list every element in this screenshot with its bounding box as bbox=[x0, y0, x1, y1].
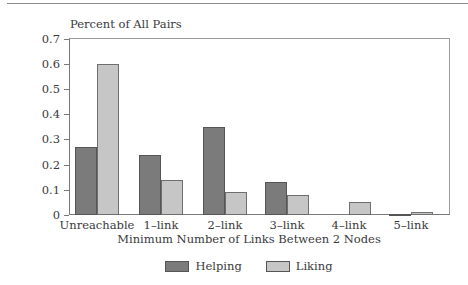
legend: Helping Liking bbox=[0, 259, 468, 273]
legend-label-helping: Helping bbox=[195, 259, 241, 273]
y-tick bbox=[64, 215, 69, 216]
y-tick-label: 0.6 bbox=[30, 57, 60, 71]
y-tick bbox=[64, 190, 69, 191]
y-tick bbox=[64, 89, 69, 90]
y-tick-label: 0 bbox=[30, 208, 60, 222]
y-tick-label: 0.5 bbox=[30, 82, 60, 96]
x-axis-label: Minimum Number of Links Between 2 Nodes bbox=[0, 232, 468, 246]
y-tick bbox=[64, 165, 69, 166]
legend-item-liking: Liking bbox=[266, 259, 333, 273]
bar-helping bbox=[203, 127, 225, 215]
y-tick bbox=[64, 39, 69, 40]
y-tick-label: 0.2 bbox=[30, 158, 60, 172]
bar-liking bbox=[287, 195, 309, 215]
y-tick-label: 0.7 bbox=[30, 32, 60, 46]
bar-liking bbox=[97, 64, 119, 215]
y-axis-label: Percent of All Pairs bbox=[70, 17, 182, 31]
bar-liking bbox=[225, 192, 247, 215]
y-tick-label: 0.3 bbox=[30, 132, 60, 146]
y-tick bbox=[64, 139, 69, 140]
legend-label-liking: Liking bbox=[296, 259, 333, 273]
bar-helping bbox=[75, 147, 97, 215]
legend-item-helping: Helping bbox=[165, 259, 241, 273]
bar-liking bbox=[411, 212, 433, 215]
y-tick bbox=[64, 114, 69, 115]
x-tick-label: 5–link bbox=[371, 218, 451, 232]
legend-swatch-helping bbox=[165, 261, 189, 272]
y-tick-label: 0.4 bbox=[30, 107, 60, 121]
bar-liking bbox=[161, 180, 183, 215]
legend-swatch-liking bbox=[266, 261, 290, 272]
bar-liking bbox=[349, 202, 371, 215]
bar-helping bbox=[265, 182, 287, 215]
y-tick-label: 0.1 bbox=[30, 183, 60, 197]
y-tick bbox=[64, 64, 69, 65]
bar-helping bbox=[389, 214, 411, 216]
plot-area bbox=[69, 38, 450, 215]
top-rule bbox=[7, 3, 468, 4]
bar-helping bbox=[139, 155, 161, 215]
